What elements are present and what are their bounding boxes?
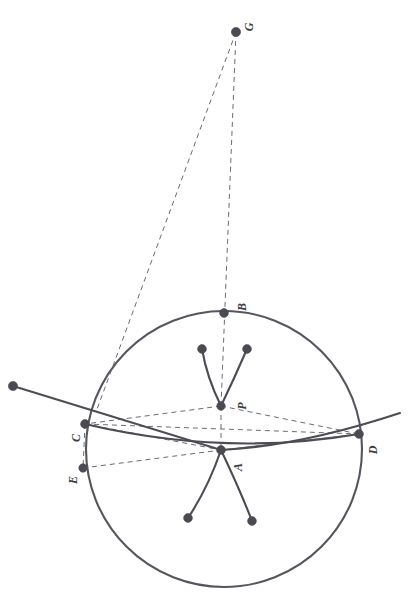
point-curve-lower-left-end[interactable]	[184, 514, 193, 523]
label-P: P	[236, 402, 248, 409]
point-B[interactable]	[220, 309, 229, 318]
point-curve-upper-left-end[interactable]	[198, 345, 207, 354]
point-P[interactable]	[217, 402, 225, 410]
curve-upper-right-branch	[221, 349, 247, 406]
curve-upper-left-branch	[202, 349, 221, 406]
label-D: D	[367, 446, 379, 455]
dashed-G-through-B-to-P	[221, 32, 236, 406]
point-D[interactable]	[355, 430, 364, 439]
label-G: G	[243, 23, 255, 32]
points-layer	[8, 27, 363, 525]
dashed-arc-C-to-E	[83, 424, 85, 468]
dashed-G-to-C	[96, 32, 236, 412]
point-A[interactable]	[217, 446, 226, 455]
label-B: B	[236, 303, 248, 311]
geometry-figure: GBPACDE	[0, 0, 413, 595]
chord-arc-C-to-D	[85, 424, 359, 443]
point-G[interactable]	[231, 27, 240, 36]
point-C[interactable]	[81, 420, 90, 429]
label-A: A	[232, 463, 244, 471]
curve-lower-left-branch	[188, 450, 221, 518]
geometry-canvas	[0, 0, 413, 595]
point-E[interactable]	[79, 464, 87, 472]
point-curve-upper-right-end[interactable]	[243, 345, 252, 354]
label-E: E	[67, 476, 79, 484]
label-C: C	[70, 434, 82, 442]
point-arc-left-end[interactable]	[8, 381, 17, 390]
point-curve-lower-right-end[interactable]	[248, 517, 257, 526]
curve-lower-right-branch	[221, 450, 252, 521]
